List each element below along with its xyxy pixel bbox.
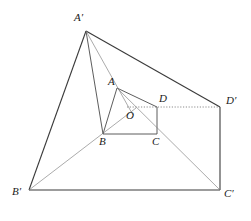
segment-cp-a xyxy=(117,88,220,190)
vertex-label-b-prime: B′ xyxy=(12,186,21,197)
vertex-label-d-prime: D′ xyxy=(226,95,236,106)
geometry-figure: A′ A D D′ O B C B′ C′ xyxy=(0,0,251,221)
vertex-label-c-prime: C′ xyxy=(224,188,234,199)
segment-bp-o xyxy=(29,108,136,190)
segment-ap-dp xyxy=(86,31,220,107)
vertex-label-a-prime: A′ xyxy=(74,12,83,23)
segment-ap-bp xyxy=(29,31,86,190)
vertex-label-b: B xyxy=(99,136,106,147)
segment-a-b xyxy=(103,88,117,134)
vertex-label-o: O xyxy=(126,110,134,121)
vertex-label-d: D xyxy=(159,93,167,104)
vertex-label-c: C xyxy=(152,136,159,147)
vertex-label-a: A xyxy=(108,76,115,87)
